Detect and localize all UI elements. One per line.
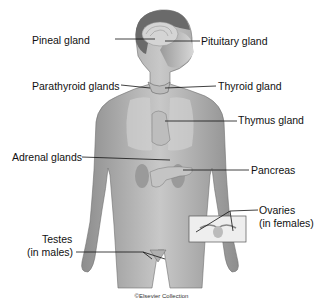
label-ovaries-note: (in females) (259, 217, 314, 229)
copyright-text: ©Elsevier Collection (0, 293, 323, 299)
label-parathyroid-glands: Parathyroid glands (32, 80, 120, 92)
label-testes-note: (in males) (27, 246, 73, 258)
label-pituitary-gland: Pituitary gland (201, 35, 268, 47)
label-thyroid-gland: Thyroid gland (218, 80, 282, 92)
endocrine-diagram: Pineal gland Pituitary gland Parathyroid… (0, 0, 323, 303)
label-pancreas: Pancreas (251, 164, 295, 176)
label-testes: Testes (42, 233, 72, 245)
label-adrenal-glands: Adrenal glands (12, 151, 82, 163)
label-pineal-gland: Pineal gland (32, 34, 90, 46)
label-ovaries: Ovaries (259, 204, 295, 216)
label-thymus-gland: Thymus gland (238, 114, 304, 126)
